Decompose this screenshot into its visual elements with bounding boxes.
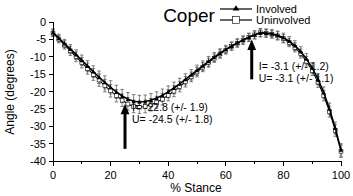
coper-angle-chart: 0-5-10-15-20-25-30-35-40 020406080100 I=… [0, 0, 353, 196]
data-marker-uninvolved [126, 102, 130, 106]
x-tick-label: 60 [220, 169, 232, 181]
y-tick-label: 0 [40, 16, 46, 28]
annotation-line-1: I= -3.1 (+/- 1.2) [259, 60, 329, 72]
x-axis-title: % Stance [170, 181, 222, 195]
y-axis-title: Angle (degrees) [3, 49, 17, 134]
y-tick-label: -30 [30, 120, 46, 132]
data-marker-uninvolved [120, 98, 124, 102]
y-tick-label: -5 [36, 33, 46, 45]
legend-label-uninvolved: Uninvolved [256, 14, 310, 26]
open-square-icon [233, 17, 240, 24]
x-tick-label: 40 [162, 169, 174, 181]
y-tick-label: -25 [30, 103, 46, 115]
annotation-arrow-shaft [124, 113, 127, 149]
annotation-line-2: U= -3.1 (+/- 1.1) [259, 72, 334, 84]
chart-title: Coper [163, 5, 215, 26]
y-tick-label: -10 [30, 51, 46, 63]
data-marker-uninvolved [166, 93, 170, 97]
y-tick-label: -15 [30, 68, 46, 80]
data-marker-uninvolved [109, 89, 113, 93]
x-tick-label: 100 [332, 169, 350, 181]
chart-container: 0-5-10-15-20-25-30-35-40 020406080100 I=… [0, 0, 353, 196]
x-tick-label: 20 [104, 169, 116, 181]
y-tick-label: -20 [30, 86, 46, 98]
annotation-line-1: I= -22.8 (+/- 1.9) [132, 101, 208, 113]
y-tick-label: -40 [30, 155, 46, 167]
annotation-arrow-shaft [250, 48, 253, 79]
annotation-line-2: U= -24.5 (+/- 1.8) [132, 113, 213, 125]
data-marker-uninvolved [114, 94, 118, 98]
y-tick-label: -35 [30, 138, 46, 150]
x-tick-label: 80 [277, 169, 289, 181]
x-tick-label: 0 [50, 169, 56, 181]
